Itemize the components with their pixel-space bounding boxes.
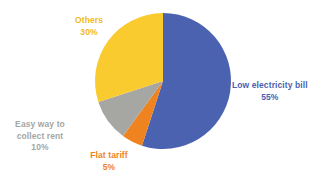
pie-label-others-name: Others bbox=[58, 15, 120, 27]
pie-label-easy-way-to-collect-rent-line2: collect rent bbox=[4, 131, 76, 143]
pie-label-flat-tariff: Flat tariff 5% bbox=[76, 150, 142, 173]
pie-label-low-electricity-bill-name: Low electricity bill bbox=[232, 80, 308, 92]
pie-label-others: Others 30% bbox=[58, 15, 120, 38]
pie-label-easy-way-to-collect-rent-value: 10% bbox=[4, 142, 76, 154]
pie-label-flat-tariff-name: Flat tariff bbox=[76, 150, 142, 162]
pie-label-others-value: 30% bbox=[58, 27, 120, 39]
pie-label-low-electricity-bill: Low electricity bill 55% bbox=[232, 80, 308, 103]
pie-chart: Low electricity bill 55% Others 30% Easy… bbox=[0, 0, 330, 182]
pie-label-low-electricity-bill-value: 55% bbox=[232, 92, 308, 104]
pie-label-easy-way-to-collect-rent: Easy way to collect rent 10% bbox=[4, 119, 76, 154]
pie-label-easy-way-to-collect-rent-line1: Easy way to bbox=[4, 119, 76, 131]
pie-label-flat-tariff-value: 5% bbox=[76, 162, 142, 174]
